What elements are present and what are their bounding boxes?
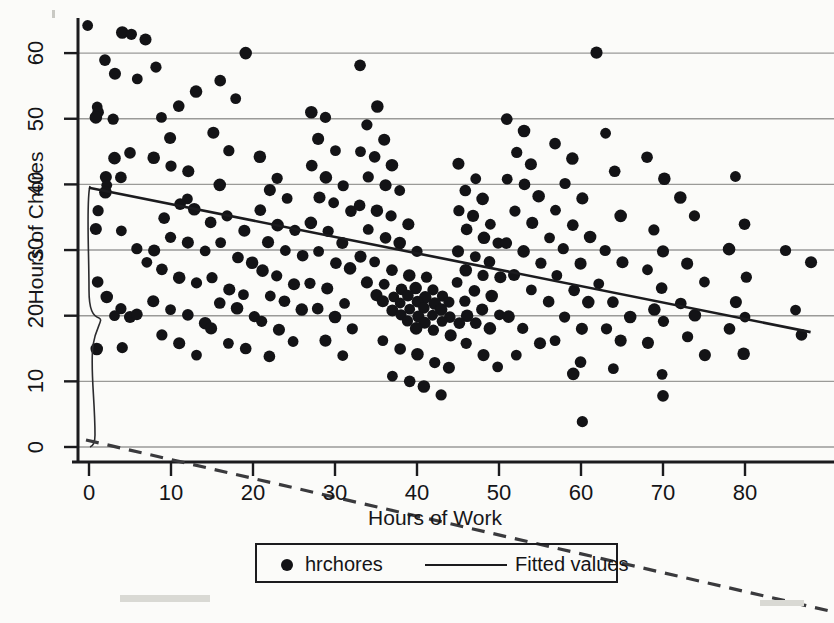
scatter-point [532,190,545,203]
scatter-point [418,380,431,393]
scatter-point [642,337,654,349]
scatter-point [494,271,506,283]
x-tick-label: 80 [733,480,757,506]
scatter-point [723,243,736,256]
scatter-point [689,210,700,221]
scatter-point [165,232,176,243]
x-tick-label: 10 [159,480,183,506]
scatter-point [658,316,669,327]
scatter-point [436,389,447,400]
scatter-point [90,223,102,235]
scatter-point [476,193,489,206]
scatter-point [295,303,308,316]
scatter-point [354,59,366,71]
scatter-point [173,337,185,349]
scatter-point [534,337,546,349]
scatter-point [476,304,488,316]
scatter-point [338,180,349,191]
scatter-point [232,252,244,264]
scatter-point [206,272,217,283]
scatter-point [459,185,471,197]
scatter-point [313,191,325,203]
scatter-point [469,285,481,297]
scatter-point [214,75,226,87]
scatter-point [459,264,472,277]
scatter-point [608,363,619,374]
scatter-point [393,237,406,250]
legend-line-swatch [425,564,507,566]
scatter-point [648,303,661,316]
scatter-points-group [82,20,817,427]
x-axis-title: Hours of Work [335,506,535,530]
scatter-point [150,62,161,73]
x-tick-label: 0 [83,480,95,506]
scatter-point [730,296,742,308]
scatter-point [182,237,194,249]
scan-speck [52,10,55,18]
scatter-point [550,335,561,346]
scatter-point [470,173,481,184]
scatter-point [467,210,479,222]
scatter-point [402,218,414,230]
scan-speck [120,595,210,602]
scatter-point [477,270,488,281]
scatter-point [321,282,333,294]
scatter-point [191,350,202,361]
scatter-point [590,47,602,59]
scatter-point [238,225,250,237]
scatter-point [616,256,628,268]
scatter-point [600,128,611,139]
scatter-point [544,232,555,243]
scatter-point [485,219,496,230]
scatter-point [240,343,252,355]
scatter-point [657,369,668,380]
scatter-point [386,264,398,276]
scatter-point [656,282,668,294]
scatter-point [344,262,357,275]
scatter-point [100,291,113,304]
scatter-point [265,291,276,302]
scatter-point [470,317,482,329]
scatter-point [254,204,266,216]
scatter-point [223,145,234,156]
y-tick-label: 10 [23,369,49,393]
scatter-point [657,390,669,402]
scatter-point [262,236,274,248]
scatter-point [517,245,530,258]
scatter-point [339,298,350,309]
scatter-point [288,278,300,290]
scatter-point [445,329,457,341]
scatter-point [526,284,537,295]
scatter-point [347,323,358,334]
legend-marker-circle-icon [281,559,293,571]
scatter-point [511,350,522,361]
scatter-point [780,245,791,256]
scatter-point [387,371,398,382]
scatter-point [437,316,448,327]
scatter-point [92,276,104,288]
scatter-point [164,132,176,144]
scatter-point [452,277,463,288]
scatter-point [641,151,653,163]
scatter-point [511,147,522,158]
scatter-point [601,323,612,334]
scatter-point [280,245,291,256]
x-axis-ticks [89,462,745,476]
scan-speck [760,600,804,606]
scatter-point [191,277,202,288]
scatter-point [354,251,366,263]
scatter-point [361,119,372,130]
y-tick-label: 20 [23,303,49,327]
scatter-point [379,179,391,191]
scatter-point [614,210,627,223]
scatter-point [574,258,586,270]
x-tick-label: 70 [651,480,675,506]
scatter-point [566,152,579,165]
y-axis-ticks [64,53,78,447]
scatter-point [271,270,282,281]
scatter-point [377,335,388,346]
scatter-point [273,324,285,336]
scatter-point [304,278,315,289]
scatter-point [411,348,424,361]
y-tick-label: 30 [23,238,49,262]
